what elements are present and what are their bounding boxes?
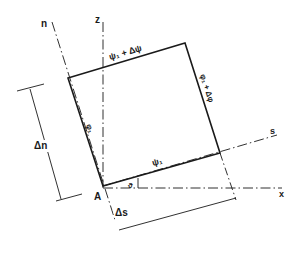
origin-label: A bbox=[94, 191, 101, 202]
n-axis-label: n bbox=[41, 18, 47, 29]
fluid-element bbox=[68, 43, 220, 186]
x-axis-label: x bbox=[279, 189, 284, 199]
right-edge-label: φ₁ + Δφ bbox=[198, 73, 216, 104]
angle-label: ϑ bbox=[128, 181, 133, 190]
element-diagram: z n s x ψ₁ + Δψ ψ₁ φ₁ φ₁ + Δφ A ϑ Δn Δs bbox=[0, 0, 307, 253]
z-axis-label: z bbox=[95, 14, 100, 25]
delta-s-label: Δs bbox=[115, 207, 128, 218]
delta-n-label: Δn bbox=[34, 140, 47, 151]
n-axis bbox=[52, 22, 115, 220]
top-edge-label: ψ₁ + Δψ bbox=[108, 43, 143, 62]
s-axis-label: s bbox=[270, 126, 275, 136]
delta-s-dimension bbox=[119, 198, 236, 230]
bottom-edge-label: ψ₁ bbox=[151, 155, 164, 168]
right-extension-line bbox=[220, 153, 236, 200]
